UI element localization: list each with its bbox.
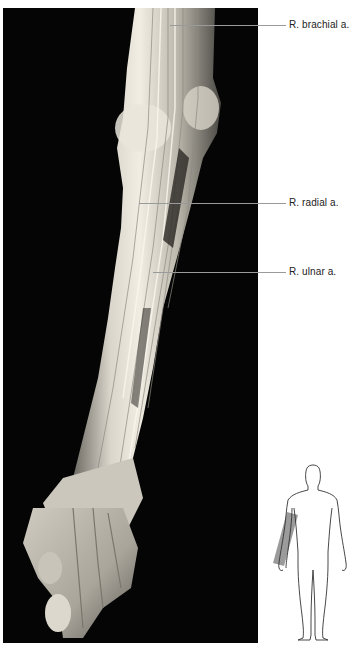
- label-ulnar-artery: R. ulnar a.: [289, 266, 336, 278]
- orientation-body-figure: [270, 460, 353, 645]
- forearm-specimen-illustration: [3, 8, 258, 643]
- leader-line-ulnar: [153, 272, 286, 273]
- label-brachial-artery: R. brachial a.: [289, 19, 349, 31]
- leader-line-radial: [139, 203, 286, 204]
- body-outline-icon: [270, 460, 353, 645]
- dissection-photo: [3, 8, 258, 643]
- leader-line-brachial: [170, 25, 286, 26]
- label-radial-artery: R. radial a.: [289, 197, 339, 209]
